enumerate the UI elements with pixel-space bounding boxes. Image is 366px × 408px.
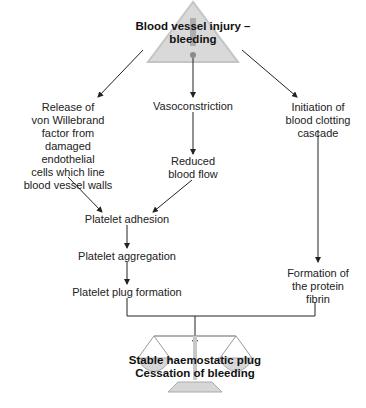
node-fibrin-formation: Formation of the protein fibrin [273, 267, 363, 306]
diagram-connectors [0, 0, 366, 408]
node-platelet-aggregation: Platelet aggregation [62, 250, 192, 263]
node-stable-haemostatic-plug: Stable haemostatic plug Cessation of ble… [115, 354, 275, 380]
node-platelet-adhesion: Platelet adhesion [67, 213, 187, 226]
node-vasoconstriction: Vasoconstriction [143, 100, 243, 113]
node-platelet-plug-formation: Platelet plug formation [57, 286, 197, 299]
node-reduced-blood-flow: Reduced blood flow [153, 155, 233, 181]
node-blood-vessel-injury: Blood vessel injury – bleeding [113, 20, 273, 46]
node-clotting-cascade: Initiation of blood clotting cascade [273, 101, 363, 140]
node-von-willebrand-release: Release of von Willebrand factor from da… [8, 101, 128, 192]
